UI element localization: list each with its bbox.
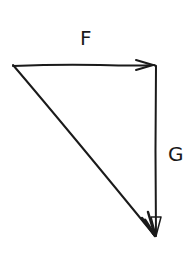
label-f: F — [80, 28, 92, 48]
vector-resultant — [13, 65, 155, 236]
vector-f — [13, 60, 153, 70]
label-g: G — [168, 144, 184, 164]
vector-diagram — [0, 0, 190, 258]
vector-g — [151, 65, 161, 236]
